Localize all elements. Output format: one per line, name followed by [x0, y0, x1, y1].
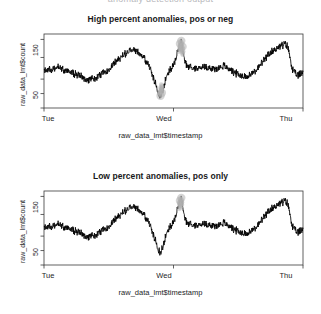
x-axis-label-high: raw_data_lmt$timestamp [0, 131, 321, 140]
plot-area-high [0, 0, 321, 125]
chart-panel-high: High percent anomalies, pos or neg raw_d… [0, 0, 321, 157]
x-axis-label-low: raw_data_lmt$timestamp [0, 288, 321, 297]
chart-panel-low: Low percent anomalies, pos only raw_data… [0, 157, 321, 314]
plot-area-low [0, 157, 321, 282]
